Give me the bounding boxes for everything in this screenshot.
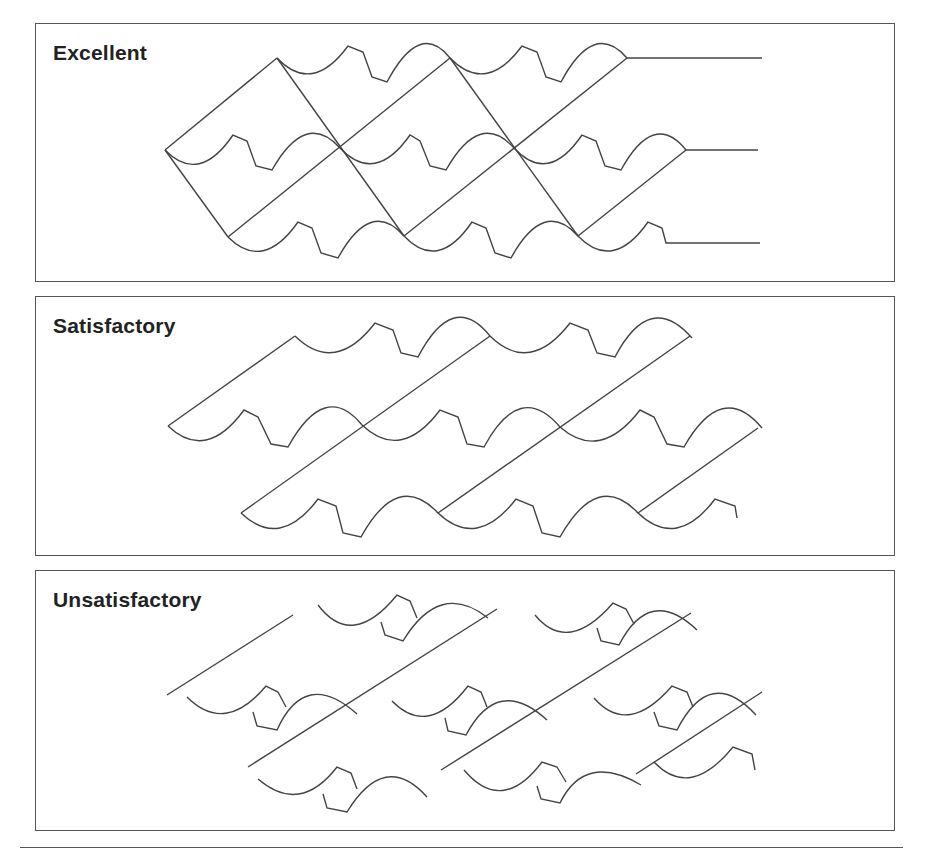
stitch-diagram-unsatisfactory [35, 570, 895, 831]
bottom-rule [20, 847, 903, 848]
panel-excellent: Excellent [35, 23, 895, 282]
panel-satisfactory: Satisfactory [35, 296, 895, 556]
panel-unsatisfactory: Unsatisfactory [35, 570, 895, 831]
stitch-diagram-excellent [35, 23, 895, 282]
stitch-diagram-satisfactory [35, 296, 895, 556]
